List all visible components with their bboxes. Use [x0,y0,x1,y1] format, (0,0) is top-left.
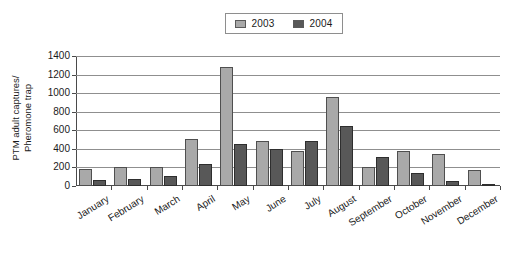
bar-2004-january [93,180,106,186]
bar-group [465,56,500,186]
bar-2004-july [305,141,318,186]
bar-2004-september [376,157,389,186]
x-tick-mark [253,186,254,190]
x-axis-label-june: June [263,193,287,214]
bar-2003-march [150,167,163,187]
bar-2003-january [79,169,92,186]
bar-series-container [76,56,500,186]
y-tick-label: 1400 [48,51,70,61]
bar-chart-figure: 2003 2004 PTM adult captures/ Pheromone … [0,0,515,255]
bar-2003-december [468,170,481,186]
x-tick-mark [147,186,148,190]
y-tick-label: 1200 [48,70,70,80]
bar-2003-october [397,151,410,186]
y-tick-label: 400 [53,144,70,154]
bar-2003-august [326,97,339,186]
bar-2003-may [220,67,233,186]
bar-2003-september [362,167,375,186]
x-tick-mark [465,186,466,190]
bar-2003-july [291,151,304,186]
bar-group [323,56,358,186]
x-axis-label-february: February [106,193,146,224]
y-tick-label: 1000 [48,88,70,98]
plot-area: 0200400600800100012001400 JanuaryFebruar… [76,56,500,186]
bar-2003-february [114,167,127,187]
y-tick-label: 600 [53,125,70,135]
bar-group [111,56,146,186]
x-axis-label-january: January [75,193,111,221]
bar-group [359,56,394,186]
x-axis-label-may: May [230,193,252,212]
bar-group [147,56,182,186]
x-tick-mark [359,186,360,190]
bar-group [76,56,111,186]
bar-2004-june [270,149,283,186]
y-tick-label: 0 [64,181,70,191]
bar-group [217,56,252,186]
bar-group [394,56,429,186]
x-tick-mark [182,186,183,190]
bar-2004-april [199,164,212,186]
bar-2003-april [185,139,198,186]
bar-2004-may [234,144,247,186]
bar-2004-november [446,181,459,186]
y-axis-title-line1: PTM adult captures/ [10,75,21,160]
legend-swatch-2004 [293,20,304,28]
bar-2004-august [340,126,353,186]
y-axis-title-line2: Pheromone trap [21,75,33,160]
legend-swatch-2003 [235,20,246,28]
x-tick-mark [394,186,395,190]
chart-legend: 2003 2004 [225,13,343,34]
legend-label-2004: 2004 [309,19,332,29]
bar-2004-december [482,184,495,186]
bar-group [182,56,217,186]
bar-2003-november [432,154,445,187]
x-axis-label-july: July [302,193,323,212]
legend-entry-2004: 2004 [293,19,332,29]
legend-entry-2003: 2003 [235,19,274,29]
x-axis-label-april: April [194,193,217,213]
x-tick-mark [500,186,501,190]
y-tick-mark [72,186,76,187]
bar-group [429,56,464,186]
x-tick-mark [429,186,430,190]
x-tick-mark [111,186,112,190]
x-tick-mark [323,186,324,190]
y-tick-label: 800 [53,107,70,117]
y-axis-title: PTM adult captures/ Pheromone trap [8,48,34,188]
bar-2004-march [164,176,177,186]
x-tick-mark [217,186,218,190]
x-tick-mark [288,186,289,190]
legend-label-2003: 2003 [251,19,274,29]
bar-2004-october [411,173,424,186]
x-axis-label-march: March [152,193,181,217]
bar-2004-february [128,179,141,186]
y-tick-label: 200 [53,162,70,172]
bar-2003-june [256,141,269,186]
bar-group [288,56,323,186]
bar-group [253,56,288,186]
